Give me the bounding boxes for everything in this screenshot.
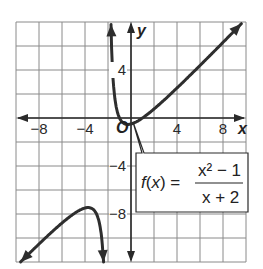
curve-arrow-end-icon	[98, 250, 108, 262]
function-numerator: x² − 1	[198, 161, 241, 180]
y-tick-label: 4	[118, 61, 126, 78]
x-axis-arrow-left	[17, 114, 28, 122]
y-tick-label: −8	[109, 205, 126, 222]
x-tick-label: −8	[30, 120, 47, 137]
origin-label: O	[116, 119, 129, 136]
y-axis-arrow-down	[127, 251, 135, 262]
x-tick-label: 8	[219, 120, 227, 137]
y-axis-label: y	[136, 22, 147, 39]
y-tick-label: −4	[109, 157, 126, 174]
y-axis-arrow-up	[127, 22, 135, 33]
function-denominator: x + 2	[202, 188, 239, 207]
function-callout: f(x) = x² − 1 x + 2	[133, 122, 248, 212]
function-lhs: f(x) =	[141, 173, 180, 192]
x-tick-label: −4	[76, 120, 93, 137]
x-tick-label: 4	[173, 120, 181, 137]
x-axis-label: x	[237, 120, 248, 137]
rational-function-graph: −8−4484−4−8xyO f(x) = x² − 1 x + 2	[0, 0, 263, 269]
